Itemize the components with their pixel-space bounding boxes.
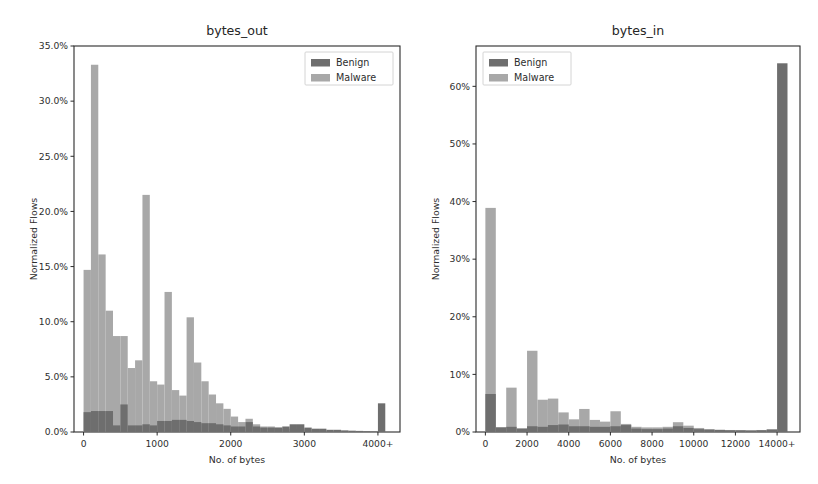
bar-benign: [84, 412, 91, 432]
bar-benign: [517, 429, 527, 432]
bar-benign: [245, 422, 252, 432]
y-tick-label: 20%: [450, 311, 471, 322]
bar-benign: [187, 421, 194, 432]
legend-label-malware: Malware: [336, 72, 376, 83]
x-tick-label: 0: [81, 438, 87, 449]
bars-bytes_out: [84, 65, 386, 432]
legend-swatch-malware: [489, 74, 508, 82]
bar-benign: [128, 425, 135, 432]
bar-malware: [135, 360, 142, 432]
y-axis-label-bytes_in: Normalized Flows: [430, 198, 441, 281]
bar-benign: [179, 420, 186, 432]
bar-benign: [326, 430, 333, 432]
bar-benign: [704, 430, 714, 432]
legend-label-benign: Benign: [514, 57, 547, 68]
bar-benign: [106, 411, 113, 432]
bar-benign: [98, 411, 105, 432]
y-tick-label: 15.0%: [39, 261, 68, 272]
bar-benign: [378, 403, 385, 432]
bar-benign: [282, 426, 289, 432]
bars-bytes_in: [485, 63, 787, 432]
bar-benign: [673, 426, 683, 432]
bar-benign: [194, 422, 201, 432]
bar-malware: [506, 388, 516, 432]
bar-malware: [142, 195, 149, 432]
bar-benign: [485, 394, 495, 432]
bar-malware: [165, 292, 172, 432]
y-tick-label: 25.0%: [39, 151, 68, 162]
x-tick-label: 4000+: [362, 438, 393, 449]
y-tick-label: 40%: [450, 196, 471, 207]
x-tick-label: 4000: [557, 438, 581, 449]
bar-benign: [642, 429, 652, 432]
bar-malware: [150, 381, 157, 432]
bar-benign: [725, 430, 735, 432]
y-tick-label: 30%: [450, 253, 471, 264]
x-tick-label: 12000: [721, 438, 750, 449]
bar-benign: [662, 429, 672, 432]
bar-malware: [187, 317, 194, 432]
legend-swatch-benign: [489, 59, 508, 67]
bar-benign: [715, 430, 725, 432]
bar-benign: [621, 425, 631, 432]
x-tick-label: 2000: [219, 438, 243, 449]
bar-benign: [652, 429, 662, 432]
bar-benign: [631, 429, 641, 432]
bar-benign: [548, 425, 558, 432]
x-tick-label: 1000: [145, 438, 169, 449]
bar-benign: [767, 430, 777, 432]
bar-benign: [569, 426, 579, 432]
bar-malware: [98, 254, 105, 432]
y-tick-label: 35.0%: [39, 40, 68, 51]
bar-malware: [128, 368, 135, 432]
bar-benign: [275, 428, 282, 432]
bar-benign: [172, 420, 179, 432]
bar-benign: [496, 427, 506, 432]
bar-benign: [334, 430, 341, 432]
bar-benign: [683, 428, 693, 432]
bar-benign: [142, 424, 149, 432]
chart-title-bytes_out: bytes_out: [206, 23, 268, 38]
legend-label-benign: Benign: [336, 57, 369, 68]
plot-frame-bytes_in: [476, 46, 800, 432]
bar-benign: [253, 426, 260, 432]
bar-benign: [91, 411, 98, 432]
chart-panel-bytes-in: bytes_in0%10%20%30%40%50%60%020004000600…: [418, 0, 818, 484]
bar-benign: [506, 427, 516, 432]
bar-benign: [777, 63, 787, 432]
bar-benign: [165, 421, 172, 432]
y-tick-label: 10.0%: [39, 316, 68, 327]
y-tick-label: 0.0%: [45, 426, 69, 437]
x-tick-label: 8000: [640, 438, 664, 449]
x-tick-label: 10000: [679, 438, 708, 449]
bar-malware: [84, 270, 91, 432]
bar-benign: [319, 429, 326, 432]
bar-benign: [304, 428, 311, 432]
bar-benign: [150, 425, 157, 432]
bar-benign: [223, 425, 230, 432]
bar-benign: [201, 423, 208, 432]
bar-benign: [579, 426, 589, 432]
x-axis-label-bytes_out: No. of bytes: [209, 454, 266, 465]
chart-title-bytes_in: bytes_in: [612, 23, 664, 38]
bar-benign: [231, 426, 238, 432]
bar-benign: [537, 427, 547, 432]
bar-benign: [756, 430, 766, 432]
bar-malware: [194, 363, 201, 432]
bar-malware: [113, 336, 120, 432]
bar-benign: [238, 426, 245, 432]
x-axis-label-bytes_in: No. of bytes: [610, 454, 667, 465]
bar-benign: [746, 431, 756, 432]
bar-benign: [341, 430, 348, 432]
figure-canvas: bytes_out0.0%5.0%10.0%15.0%20.0%25.0%30.…: [0, 0, 818, 484]
bar-benign: [527, 426, 537, 432]
x-tick-label: 0: [482, 438, 488, 449]
bar-benign: [297, 424, 304, 432]
bar-benign: [268, 428, 275, 432]
y-tick-label: 5.0%: [45, 371, 69, 382]
bar-benign: [558, 425, 568, 432]
y-tick-label: 50%: [450, 138, 471, 149]
y-tick-label: 20.0%: [39, 206, 68, 217]
bar-benign: [348, 431, 355, 432]
bar-benign: [312, 429, 319, 432]
